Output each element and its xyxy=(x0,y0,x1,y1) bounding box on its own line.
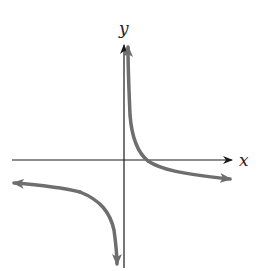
graph-canvas: y x xyxy=(0,0,266,271)
right-branch-curve xyxy=(128,47,148,161)
x-axis-label: x xyxy=(239,150,249,170)
left-branch-curve xyxy=(80,192,117,264)
right-branch-tail xyxy=(148,161,230,179)
y-axis-label: y xyxy=(118,18,129,38)
left-branch-tail xyxy=(14,183,80,192)
